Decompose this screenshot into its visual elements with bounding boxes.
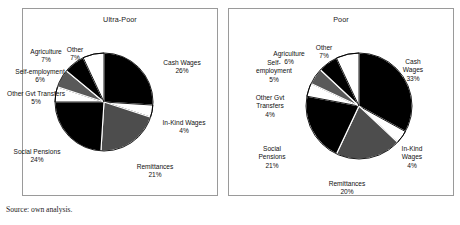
label-in-kind-wages-ultra-poor: In-Kind Wages 4%: [155, 119, 213, 136]
panel-title-poor: Poor: [229, 15, 453, 24]
label-other-gvt-transfers-poor: Other Gvt Transfers 4%: [246, 94, 294, 119]
label-social-pensions-ultra-poor: Social Pensions 24%: [6, 148, 68, 165]
label-social-pensions-poor: Social Pensions 21%: [248, 145, 296, 170]
label-remittances-poor: Remittances 20%: [318, 180, 376, 197]
figure-two-pie-charts: Ultra-Poor: [0, 0, 460, 225]
pie-slice-social-pensions: [55, 102, 104, 151]
label-self-employment-poor: Self- employment 5%: [249, 59, 299, 84]
source-note: Source: own analysis.: [6, 205, 72, 214]
label-other-gvt-transfers-ultra-poor: Other Gvt Transfers 5%: [1, 90, 71, 107]
panel-title-ultra-poor: Ultra-Poor: [23, 15, 217, 24]
label-cash-wages-poor: Cash Wages 33%: [392, 58, 434, 83]
label-cash-wages-ultra-poor: Cash Wages 26%: [155, 59, 209, 76]
label-self-employment-ultra-poor: Self-employment 6%: [9, 68, 71, 85]
label-remittances-ultra-poor: Remittances 21%: [126, 163, 184, 180]
pie-slice-cash-wages: [104, 53, 153, 105]
label-in-kind-wages-poor: In-Kind Wages 4%: [390, 145, 434, 170]
label-agriculture-ultra-poor: Agriculture 7%: [22, 48, 70, 65]
